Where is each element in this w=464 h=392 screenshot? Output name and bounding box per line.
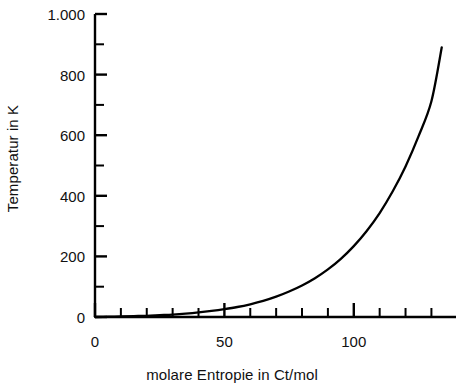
data-curve bbox=[95, 47, 442, 317]
x-tick-label: 0 bbox=[91, 333, 99, 350]
y-tick-label: 0 bbox=[13, 309, 85, 326]
tick-marks bbox=[95, 14, 431, 317]
x-tick-label: 50 bbox=[216, 333, 233, 350]
chart-figure: Temperatur in K molare Entropie in Ct/mo… bbox=[0, 0, 464, 392]
y-tick-label: 400 bbox=[13, 187, 85, 204]
x-axis-title: molare Entropie in Ct/mol bbox=[0, 366, 464, 383]
x-tick-label: 100 bbox=[341, 333, 366, 350]
y-axis-title: Temperatur in K bbox=[0, 0, 26, 317]
y-tick-label: 800 bbox=[13, 66, 85, 83]
y-tick-label: 200 bbox=[13, 248, 85, 265]
y-tick-label: 1.000 bbox=[13, 6, 85, 23]
axes bbox=[95, 14, 456, 317]
y-tick-label: 600 bbox=[13, 127, 85, 144]
